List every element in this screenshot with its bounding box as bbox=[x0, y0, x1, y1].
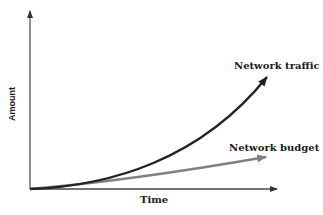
network-budget-label: Network budget bbox=[229, 143, 319, 153]
network-traffic-curve bbox=[30, 77, 267, 189]
x-axis-label: Time bbox=[140, 195, 168, 205]
network-budget-curve bbox=[30, 157, 266, 189]
growth-diagram bbox=[0, 0, 323, 215]
network-traffic-label: Network traffic bbox=[234, 61, 320, 71]
y-axis-label: Amount bbox=[8, 87, 17, 121]
